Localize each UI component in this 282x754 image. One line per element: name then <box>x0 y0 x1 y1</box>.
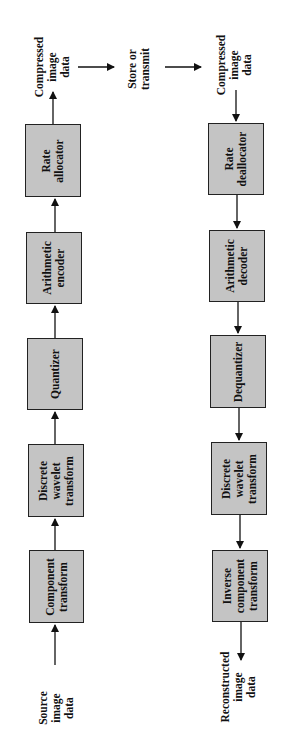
block-arithmetic-encoder: Arithmetic encoder <box>26 232 82 304</box>
block-dequantizer: Dequantizer <box>210 335 266 408</box>
label-source-image-data: Source image data <box>34 668 78 748</box>
block-label: Arithmetic encoder <box>41 241 67 295</box>
block-label: Component transform <box>44 558 70 616</box>
label-compressed-image-data-in: Compressed image data <box>212 32 256 98</box>
label-compressed-image-data-out: Compressed image data <box>30 34 74 100</box>
block-label: Discrete wavelet transform <box>37 456 76 506</box>
block-label: Dequantizer <box>232 341 245 402</box>
block-label: Discrete wavelet transform <box>220 454 259 504</box>
block-inverse-component-transform: Inverse component transform <box>212 550 268 622</box>
block-label: Inverse component transform <box>221 559 260 613</box>
block-rate-allocator: Rate allocator <box>25 124 81 197</box>
block-arithmetic-decoder: Arithmetic decoder <box>209 230 265 302</box>
block-label: Arithmetic decoder <box>224 239 250 293</box>
label-reconstructed-image-data: Reconstructed image data <box>216 640 260 734</box>
block-label: Rate allocator <box>40 139 66 182</box>
block-component-transform: Component transform <box>29 550 84 623</box>
block-discrete-wavelet-transform: Discrete wavelet transform <box>28 444 84 517</box>
block-discrete-wavelet-transform-decoder: Discrete wavelet transform <box>211 442 267 515</box>
label-store-or-transmit: Store or transmit <box>123 40 155 98</box>
block-rate-deallocator: Rate deallocator <box>208 123 264 195</box>
block-quantizer: Quantizer <box>27 338 83 410</box>
block-label: Rate deallocator <box>223 132 249 187</box>
block-label: Quantizer <box>49 349 62 399</box>
